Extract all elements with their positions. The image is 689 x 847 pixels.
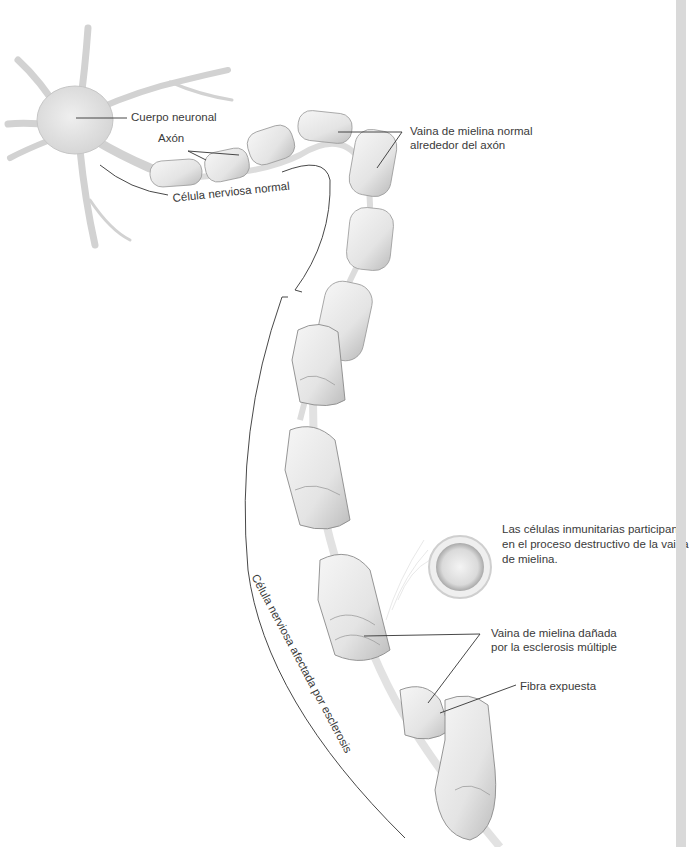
label-axon: Axón xyxy=(158,131,184,145)
label-cell-body: Cuerpo neuronal xyxy=(131,110,217,124)
label-normal-myelin: Vaina de mielina normal alrededor del ax… xyxy=(410,124,533,152)
label-immune-cells-line-2: en el proceso destructivo de la vaina xyxy=(502,537,689,552)
label-exposed-fiber: Fibra expuesta xyxy=(520,679,596,693)
label-damaged-myelin-line-1: Vaina de mielina dañada xyxy=(491,626,617,640)
cell-body xyxy=(8,28,232,245)
immune-cell xyxy=(386,536,491,620)
normal-axon xyxy=(149,109,399,420)
label-damaged-myelin-line-2: por la esclerosis múltiple xyxy=(491,640,617,654)
label-normal-myelin-line-1: Vaina de mielina normal xyxy=(410,124,533,138)
label-immune-cells: Las células inmunitarias participan en e… xyxy=(502,522,689,567)
label-immune-cells-line-1: Las células inmunitarias participan xyxy=(502,522,689,537)
label-damaged-myelin: Vaina de mielina dañada por la esclerosi… xyxy=(491,626,617,654)
label-immune-cells-line-3: de mielina. xyxy=(502,552,689,567)
label-normal-myelin-line-2: alrededor del axón xyxy=(410,138,533,152)
page-edge-bar xyxy=(676,0,686,847)
